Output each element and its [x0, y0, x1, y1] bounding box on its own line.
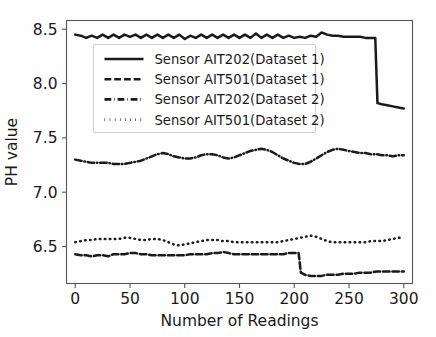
x-tick-label: 250 — [334, 290, 364, 308]
x-tick-label: 50 — [120, 290, 140, 308]
legend-label-4: Sensor AIT501(Dataset 2) — [155, 113, 325, 128]
legend[interactable]: Sensor AIT202(Dataset 1)Sensor AIT501(Da… — [94, 45, 325, 133]
y-tick-label: 7.5 — [33, 129, 58, 147]
x-tick-label: 300 — [389, 290, 419, 308]
x-axis-title: Number of Readings — [160, 312, 318, 330]
chart-figure: 0501001502002503006.57.07.58.08.5Number … — [0, 0, 436, 337]
x-tick-label: 0 — [70, 290, 80, 308]
x-tick-label: 100 — [170, 290, 200, 308]
legend-label-3: Sensor AIT202(Dataset 2) — [155, 92, 325, 107]
y-tick-label: 8.0 — [33, 75, 58, 93]
y-axis-title: PH value — [3, 118, 21, 186]
line-chart: 0501001502002503006.57.07.58.08.5Number … — [0, 0, 436, 337]
y-tick-label: 6.5 — [33, 238, 58, 256]
x-tick-label: 200 — [279, 290, 309, 308]
legend-label-1: Sensor AIT202(Dataset 1) — [155, 52, 325, 67]
x-tick-label: 150 — [225, 290, 255, 308]
y-tick-label: 8.5 — [33, 21, 58, 39]
legend-label-2: Sensor AIT501(Dataset 1) — [155, 72, 325, 87]
y-tick-label: 7.0 — [33, 184, 58, 202]
